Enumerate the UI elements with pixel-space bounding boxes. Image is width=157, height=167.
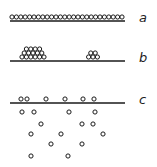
particle-circle	[95, 55, 99, 59]
particle-circle	[10, 15, 14, 19]
particle-circle	[59, 132, 63, 136]
particle-circle	[107, 15, 111, 19]
particle-circle	[24, 47, 28, 51]
particle-circle	[19, 97, 23, 101]
particle-circle	[87, 55, 91, 59]
particle-circle	[28, 15, 32, 19]
particle-circle	[120, 15, 124, 19]
particle-diagram: a b c	[0, 0, 157, 167]
particle-circle	[20, 55, 24, 59]
particle-circle	[20, 110, 24, 114]
particle-circle	[63, 15, 67, 19]
panel-b: b	[10, 47, 147, 65]
panel-a: a	[10, 10, 147, 25]
particle-circle	[32, 110, 36, 114]
particle-circle	[89, 15, 93, 19]
panel-label-a: a	[139, 10, 147, 25]
particle-circle	[81, 97, 85, 101]
particle-circle	[49, 142, 53, 146]
particle-circle	[44, 97, 48, 101]
particle-circle	[80, 142, 84, 146]
particle-circle	[58, 15, 62, 19]
particle-circle	[85, 15, 89, 19]
particles-a	[10, 15, 124, 19]
particle-circle	[66, 154, 70, 158]
particles-c	[19, 97, 105, 158]
particle-circle	[89, 51, 93, 55]
particle-circle	[36, 15, 40, 19]
particle-circle	[63, 97, 67, 101]
particle-circle	[50, 15, 54, 19]
particle-circle	[23, 15, 27, 19]
particle-circle	[116, 15, 120, 19]
particle-circle	[45, 15, 49, 19]
panel-label-b: b	[139, 50, 147, 65]
particle-circle	[19, 15, 23, 19]
particle-circle	[14, 15, 18, 19]
particle-circle	[80, 15, 84, 19]
particle-circle	[92, 97, 96, 101]
particle-circle	[76, 15, 80, 19]
particle-circle	[67, 110, 71, 114]
particle-circle	[32, 15, 36, 19]
panel-c: c	[10, 92, 146, 158]
particle-circle	[93, 110, 97, 114]
particle-circle	[33, 47, 37, 51]
particle-circle	[54, 15, 58, 19]
panel-label-c: c	[139, 92, 146, 107]
particle-circle	[67, 15, 71, 19]
particle-circle	[31, 51, 35, 55]
particle-circle	[98, 15, 102, 19]
particle-circle	[72, 15, 76, 19]
particle-circle	[41, 15, 45, 19]
particle-circle	[42, 55, 46, 59]
particle-circle	[29, 132, 33, 136]
particle-circle	[25, 97, 29, 101]
particle-circle	[33, 55, 37, 59]
particle-circle	[29, 47, 33, 51]
particle-circle	[39, 122, 43, 126]
particle-circle	[111, 15, 115, 19]
particle-circle	[29, 55, 33, 59]
particle-circle	[27, 51, 31, 55]
particle-circle	[38, 47, 42, 51]
particle-circle	[38, 55, 42, 59]
particle-circle	[101, 132, 105, 136]
particle-circle	[40, 51, 44, 55]
particle-circle	[35, 51, 39, 55]
particle-circle	[22, 51, 26, 55]
particle-circle	[91, 122, 95, 126]
particle-circle	[93, 51, 97, 55]
particle-circle	[91, 55, 95, 59]
particle-circle	[29, 154, 33, 158]
particle-circle	[80, 122, 84, 126]
particle-circle	[24, 55, 28, 59]
particle-circle	[102, 15, 106, 19]
particle-circle	[94, 15, 98, 19]
particles-b	[20, 47, 100, 59]
